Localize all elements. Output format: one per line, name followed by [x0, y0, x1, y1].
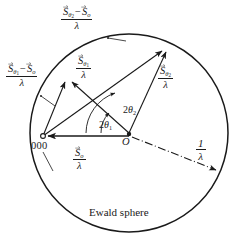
lambda-symbol: λ — [73, 160, 86, 172]
subscript-index: 1 — [86, 62, 89, 68]
vector-symbol-s: S — [78, 55, 83, 66]
lambda-symbol: λ — [196, 150, 206, 162]
angle-index: 1 — [109, 124, 112, 131]
subscript-o: o — [87, 11, 90, 18]
vector-symbol-s: S — [63, 6, 68, 17]
lambda-symbol: λ — [76, 69, 91, 81]
label-scattering-vector-theta2: Sθ2−So λ — [61, 7, 92, 32]
lambda-symbol: λ — [158, 79, 173, 91]
label-incident-vector-so: So λ — [73, 148, 86, 172]
label-sphere-radius: 1 λ — [196, 138, 206, 162]
lambda-symbol: λ — [61, 20, 92, 32]
leader-line-theta1-scattering-label — [41, 96, 55, 106]
leader-line-origin — [43, 152, 53, 171]
ewald-sphere-canvas — [0, 0, 241, 240]
vector-symbol-s: S — [82, 6, 87, 17]
label-scattering-vector-theta1: Sθ1−So λ — [6, 64, 37, 89]
leader-line-theta2-scattering-label — [108, 38, 126, 41]
subscript-o: o — [32, 68, 35, 75]
origin-marker-000 — [41, 134, 46, 139]
vector-symbol-s: S — [75, 147, 80, 158]
minus-sign: − — [19, 63, 27, 74]
angle-index: 2 — [133, 109, 136, 116]
label-angle-2theta2: 2θ2 — [123, 105, 136, 116]
vector-symbol-s: S — [8, 63, 13, 74]
subscript-index: 2 — [168, 72, 171, 78]
label-ewald-sphere-caption: Ewald sphere — [89, 207, 149, 218]
vector-symbol-s: S — [27, 63, 32, 74]
vector-symbol-s: S — [160, 65, 165, 76]
label-center-o: O — [122, 137, 130, 148]
radius-numerator: 1 — [196, 138, 206, 150]
label-diffracted-vector-theta2: Sθ2 λ — [158, 66, 173, 91]
label-diffracted-vector-theta1: Sθ1 λ — [76, 56, 91, 81]
lambda-symbol: λ — [6, 77, 37, 89]
label-origin-000: 000 — [31, 141, 47, 152]
label-angle-2theta1: 2θ1 — [99, 120, 112, 131]
minus-sign: − — [74, 6, 82, 17]
subscript-o: o — [80, 152, 83, 159]
ewald-sphere-diagram: Sθ2−So λ Sθ1−So λ Sθ1 λ Sθ2 λ — [0, 0, 241, 240]
